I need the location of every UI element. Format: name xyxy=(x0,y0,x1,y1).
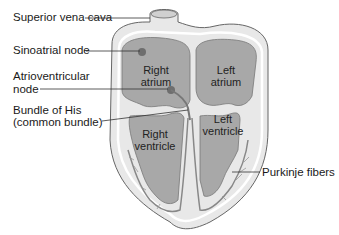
label-right-atrium-line2: atrium xyxy=(136,76,176,89)
label-purkinje-fibers: Purkinje fibers xyxy=(262,166,335,179)
sinoatrial-node xyxy=(138,48,146,56)
label-sinoatrial-node: Sinoatrial node xyxy=(13,44,90,57)
label-bundle-of-his-line2: (common bundle) xyxy=(13,116,102,129)
label-atrioventricular-node-line1: Atrioventricular xyxy=(13,70,90,83)
label-superior-vena-cava: Superior vena cava xyxy=(13,11,112,24)
label-right-ventricle-line2: ventricle xyxy=(130,140,180,153)
heart-conduction-diagram: Superior vena cava Sinoatrial node Atrio… xyxy=(0,0,339,235)
label-atrioventricular-node-line2: node xyxy=(13,83,39,96)
superior-vena-cava-opening xyxy=(151,10,177,18)
label-left-ventricle-line2: ventricle xyxy=(198,125,248,138)
label-left-atrium-line2: atrium xyxy=(206,76,246,89)
